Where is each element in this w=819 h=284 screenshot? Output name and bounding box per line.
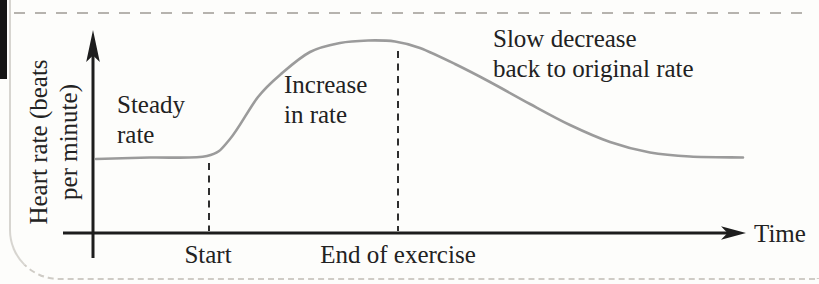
y-axis-label: Heart rate (beats per minute): [24, 21, 88, 263]
annotation-steady-rate: Steady rate: [117, 90, 185, 150]
annotation-slow-line2: back to original rate: [493, 54, 694, 84]
x-marker-end-of-exercise: End of exercise: [288, 240, 508, 270]
x-marker-start: Start: [148, 240, 268, 270]
annotation-slow-decrease: Slow decrease back to original rate: [493, 24, 694, 84]
annotation-steady-line2: rate: [117, 120, 185, 150]
annotation-increase-in-rate: Increase in rate: [284, 70, 367, 130]
annotation-slow-line1: Slow decrease: [493, 24, 694, 54]
annotation-increase-line1: Increase: [284, 70, 367, 100]
annotation-increase-line2: in rate: [284, 100, 367, 130]
annotation-steady-line1: Steady: [117, 90, 185, 120]
y-axis-label-line1: Heart rate (beats: [24, 21, 54, 263]
x-axis-label: Time: [754, 219, 806, 249]
y-axis-label-line2: per minute): [54, 21, 84, 263]
